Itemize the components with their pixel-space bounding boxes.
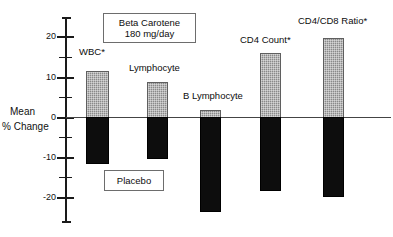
bar-negative-cd4-cd8-ratio [323,117,344,197]
y-tick-minor-5 [59,97,72,98]
series-label-lymphocyte: Lymphocyte [129,63,180,73]
y-tick-label-n10: -10 [43,153,56,162]
y-tick-minor-15 [59,57,72,58]
y-axis-bottom-cap [62,221,71,223]
bar-negative-wbc [86,117,109,164]
y-tick-n10 [57,157,74,159]
legend-beta-carotene-line1: Beta Carotene [109,17,190,28]
y-tick-20 [57,36,74,38]
y-tick-minor-n15 [59,177,72,178]
series-label-cd4-cd8-ratio: CD4/CD8 Ratio* [298,16,367,26]
y-tick-label-10: 10 [46,73,56,82]
y-axis [65,18,67,222]
y-tick-label-0: 0 [51,113,56,122]
y-axis-caption-line1: Mean [10,106,35,117]
bar-positive-lymphocyte [147,82,168,118]
bar-positive-wbc [86,71,109,118]
y-tick-minor-n5 [59,137,72,138]
legend-placebo-line1: Placebo [110,175,158,186]
bar-positive-cd4-count [260,53,281,118]
y-tick-label-20: 20 [46,32,56,41]
y-tick-10 [57,77,74,79]
y-tick-label-n20: -20 [43,193,56,202]
bar-group-cd4-cd8-ratio [323,0,344,237]
y-axis-caption-line2: % Change [2,121,49,132]
series-label-cd4-count: CD4 Count* [240,35,291,45]
bar-negative-b-lymphocyte [200,117,221,212]
bar-negative-lymphocyte [147,117,168,159]
series-label-wbc: WBC* [79,47,105,57]
bar-positive-cd4-cd8-ratio [323,38,344,118]
y-axis-top-cap [62,17,71,19]
bar-negative-cd4-count [260,117,281,191]
series-label-b-lymphocyte: B Lymphocyte [183,91,243,101]
y-tick-n20 [57,197,74,199]
bar-group-b-lymphocyte [200,0,221,237]
legend-beta-carotene: Beta Carotene 180 mg/day [103,13,196,43]
legend-placebo: Placebo [104,170,164,191]
legend-beta-carotene-line2: 180 mg/day [109,28,190,39]
bar-chart: 20 10 0 -10 -20 Mean % Change WBC* Lymph… [0,0,393,237]
